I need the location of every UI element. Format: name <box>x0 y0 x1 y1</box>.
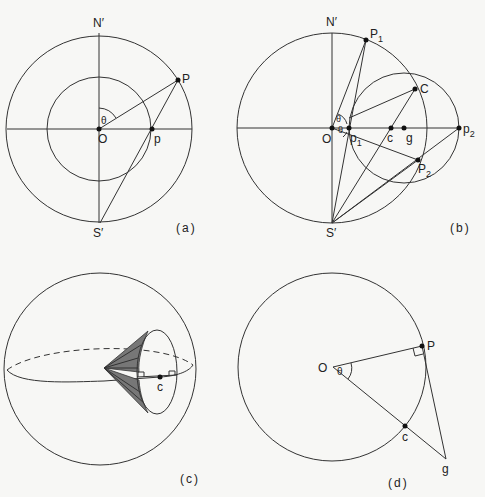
label-N: N′ <box>326 15 338 29</box>
line-O-P <box>333 346 422 367</box>
label-C: C <box>420 82 429 96</box>
label-O: O <box>322 132 331 146</box>
label-theta-2: θ <box>338 125 343 135</box>
label-g: g <box>442 462 449 476</box>
point-O <box>97 127 102 132</box>
label-c: c <box>387 131 393 145</box>
line-O-P <box>99 80 178 129</box>
point-C <box>413 87 418 92</box>
primitive-circle <box>238 273 426 461</box>
stereographic-projection-figure: N′ S′ O P p θ (a) N′ S′ O P1 C p1 <box>0 0 485 497</box>
label-P2: P2 <box>418 162 431 179</box>
point-O <box>330 126 335 131</box>
label-N: N′ <box>93 16 105 30</box>
equator-front <box>7 365 193 382</box>
point-p2 <box>457 126 462 131</box>
caption-b: (b) <box>450 221 471 235</box>
label-O: O <box>318 361 327 375</box>
point-c <box>403 424 408 429</box>
sphere-outline <box>4 273 196 465</box>
label-S: S′ <box>93 226 104 240</box>
theta-arc <box>348 363 352 379</box>
label-p2: p2 <box>463 122 475 139</box>
label-c: c <box>402 430 408 444</box>
cone-lower <box>104 368 148 413</box>
line-S-P <box>100 80 178 223</box>
point-c <box>389 126 394 131</box>
point-P <box>176 78 181 83</box>
caption-a: (a) <box>176 221 197 235</box>
point-P1 <box>364 38 369 43</box>
label-P: P <box>182 72 190 86</box>
caption-d: (d) <box>388 476 409 490</box>
label-theta: θ <box>101 115 107 126</box>
panel-c: c (c) <box>4 273 200 486</box>
panel-d: O θ P c g (d) <box>238 273 449 490</box>
label-p: p <box>154 132 161 146</box>
panel-b: N′ S′ O P1 C p1 c g p2 P2 θ θ (b) <box>237 15 475 240</box>
label-g: g <box>406 131 413 145</box>
point-g <box>402 126 407 131</box>
line-to-C <box>349 89 415 118</box>
label-P: P <box>427 339 435 353</box>
label-theta: θ <box>337 366 343 377</box>
right-angle-mark <box>413 348 423 356</box>
label-theta-1: θ <box>336 114 341 124</box>
point-c <box>158 375 163 380</box>
label-O: O <box>98 132 107 146</box>
caption-c: (c) <box>180 472 200 486</box>
point-P <box>420 344 425 349</box>
panel-a: N′ S′ O P p θ (a) <box>6 16 197 240</box>
label-c: c <box>157 380 163 394</box>
point-p1 <box>347 126 352 131</box>
point-p <box>150 127 155 132</box>
label-S: S′ <box>326 226 337 240</box>
equator-back <box>7 349 193 370</box>
